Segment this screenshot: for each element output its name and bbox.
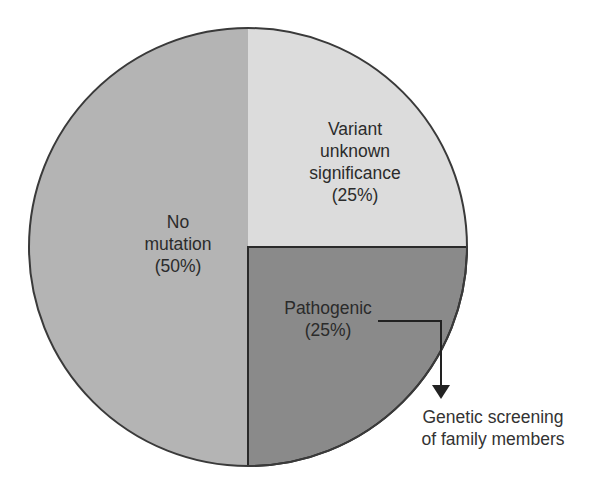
label-pathogenic: Pathogenic (25%) — [258, 297, 398, 341]
annotation-genetic-screening: Genetic screening of family members — [398, 406, 588, 450]
label-no-mutation: No mutation (50%) — [118, 211, 238, 277]
label-variant-unknown-significance: Variant unknown significance (25%) — [275, 118, 435, 206]
arrow-down-icon — [432, 385, 450, 399]
